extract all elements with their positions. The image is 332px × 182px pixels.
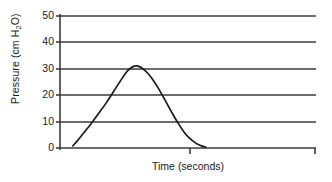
x-axis-title: Time (seconds) (60, 160, 316, 172)
gridlines-group (60, 16, 316, 122)
x-tick-marks-group (190, 148, 315, 154)
pressure-time-chart: Pressure (cm H2O) 50 40 30 20 10 0 (0, 0, 332, 182)
axes-group (60, 14, 316, 150)
pressure-curve (73, 66, 206, 147)
plot-area (0, 0, 332, 182)
